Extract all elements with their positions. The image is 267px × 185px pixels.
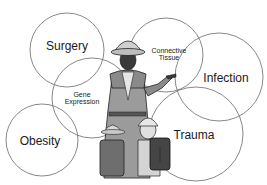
label-trauma: Trauma — [174, 129, 215, 142]
label-infection: Infection — [203, 72, 248, 85]
label-surgery: Surgery — [46, 40, 88, 53]
label-connective-tissue-line2: Tissue — [151, 54, 186, 61]
label-obesity: Obesity — [20, 135, 61, 148]
diagram-canvas: Surgery Gene Expression Connective Tissu… — [0, 0, 267, 185]
explorer-guide-with-children-illustration — [100, 41, 176, 178]
label-connective-tissue: Connective Tissue — [151, 47, 186, 62]
circles-layer — [0, 0, 267, 185]
label-connective-tissue-line1: Connective — [151, 47, 186, 54]
label-gene-expression-line2: Expression — [65, 98, 100, 105]
label-gene-expression: Gene Expression — [65, 91, 100, 106]
label-gene-expression-line1: Gene — [65, 91, 100, 98]
